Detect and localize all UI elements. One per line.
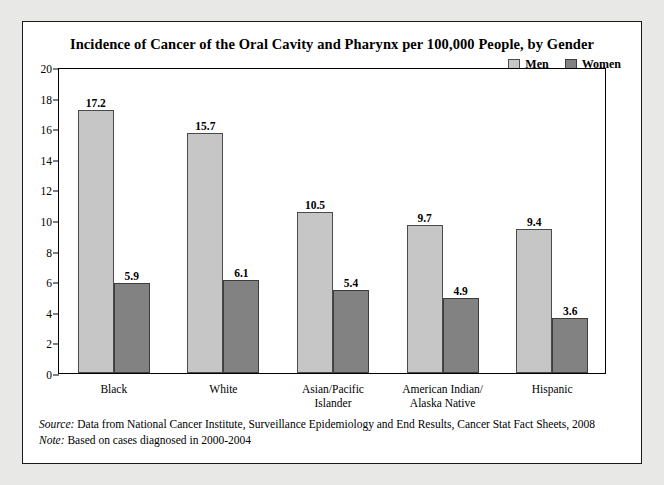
bar-group: 17.25.9Black <box>59 69 169 373</box>
plot-area: 02468101214161820 17.25.9Black15.76.1Whi… <box>58 68 606 374</box>
bar-women[interactable]: 6.1 <box>223 280 259 373</box>
bar-group: 15.76.1White <box>169 69 279 373</box>
x-axis-category-label: American Indian/Alaska Native <box>402 382 483 410</box>
bar-women[interactable]: 5.4 <box>333 290 369 373</box>
x-axis-category-label: White <box>209 382 237 396</box>
bar-group: 9.74.9American Indian/Alaska Native <box>388 69 498 373</box>
x-axis-category-label: Asian/PacificIslander <box>302 382 364 410</box>
bar-value-label: 15.7 <box>195 120 215 132</box>
bar-value-label: 9.4 <box>527 216 541 228</box>
bar-women[interactable]: 5.9 <box>114 283 150 373</box>
bar-value-label: 17.2 <box>86 97 106 109</box>
bar-value-label: 5.4 <box>344 277 358 289</box>
footnote-source-key: Source: <box>39 418 74 430</box>
y-axis-tick-label: 6 <box>46 277 52 289</box>
bar-men[interactable]: 17.2 <box>78 110 114 373</box>
bar-value-label: 10.5 <box>305 199 325 211</box>
footnote-note-key: Note: <box>39 434 65 446</box>
y-axis-tick-label: 0 <box>46 369 52 381</box>
x-axis-category-label: Black <box>100 382 127 396</box>
y-axis-tick-label: 2 <box>46 338 52 350</box>
y-axis-tick-label: 8 <box>46 247 52 259</box>
bars-layer: 17.25.9Black15.76.1White10.55.4Asian/Pac… <box>59 69 605 373</box>
bar-group: 10.55.4Asian/PacificIslander <box>278 69 388 373</box>
y-axis-tick-label: 20 <box>41 63 53 75</box>
x-axis-category-label: Hispanic <box>532 382 573 396</box>
y-axis-tick-label: 4 <box>46 308 52 320</box>
footnote-note: Note: Based on cases diagnosed in 2000-2… <box>39 432 627 448</box>
screenshot-page: Incidence of Cancer of the Oral Cavity a… <box>0 0 664 485</box>
bar-men[interactable]: 9.4 <box>516 229 552 373</box>
bar-men[interactable]: 9.7 <box>407 225 443 373</box>
y-axis-tick-label: 12 <box>41 185 53 197</box>
y-axis-tick-label: 14 <box>41 155 53 167</box>
bar-men[interactable]: 10.5 <box>297 212 333 373</box>
footnote-note-text: Based on cases diagnosed in 2000-2004 <box>65 434 252 446</box>
bar-women[interactable]: 3.6 <box>552 318 588 373</box>
bar-value-label: 6.1 <box>234 267 248 279</box>
bar-value-label: 9.7 <box>417 212 431 224</box>
y-axis-tick-label: 18 <box>41 94 53 106</box>
y-axis-tick-label: 10 <box>41 216 53 228</box>
plot-wrapper: 02468101214161820 17.25.9Black15.76.1Whi… <box>58 68 606 374</box>
bar-group: 9.43.6Hispanic <box>497 69 607 373</box>
bar-value-label: 3.6 <box>563 305 577 317</box>
footnotes: Source: Data from National Cancer Instit… <box>39 416 627 448</box>
bar-value-label: 4.9 <box>453 285 467 297</box>
y-axis-tick-mark <box>53 375 59 376</box>
chart-figure: Incidence of Cancer of the Oral Cavity a… <box>22 21 642 464</box>
bar-women[interactable]: 4.9 <box>443 298 479 373</box>
y-axis-tick-label: 16 <box>41 124 53 136</box>
bar-value-label: 5.9 <box>125 270 139 282</box>
footnote-source-text: Data from National Cancer Institute, Sur… <box>74 418 595 430</box>
footnote-source: Source: Data from National Cancer Instit… <box>39 416 627 432</box>
bar-men[interactable]: 15.7 <box>187 133 223 373</box>
chart-title: Incidence of Cancer of the Oral Cavity a… <box>23 36 641 53</box>
